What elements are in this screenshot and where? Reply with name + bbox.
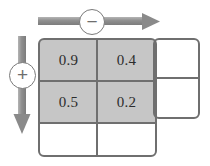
grid-divider-vertical-1	[96, 40, 98, 155]
grid-divider-horizontal-2	[40, 122, 155, 124]
minus-icon: −	[86, 12, 97, 31]
grid: 0.9 0.4 0.5 0.2	[38, 38, 200, 157]
plus-icon: +	[17, 65, 28, 84]
minus-operator-badge: −	[79, 9, 105, 35]
grid-divider-horizontal-right	[155, 77, 198, 79]
grid-divider-horizontal-1	[40, 80, 155, 82]
plus-operator-badge: +	[9, 62, 36, 89]
diagram-canvas: − + 0.9 0.4 0.5 0.2	[0, 0, 210, 166]
